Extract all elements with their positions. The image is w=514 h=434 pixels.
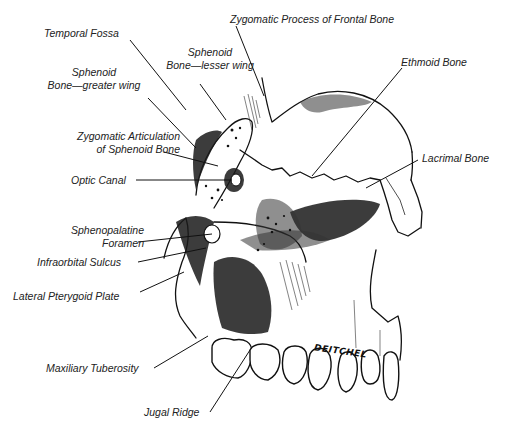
label-sphenopalatine-line1: Sphenopalatine: [40, 224, 144, 237]
leader-lateral-pterygoid: [140, 272, 184, 292]
label-lacrimal-bone: Lacrimal Bone: [422, 152, 489, 165]
label-temporal-fossa: Temporal Fossa: [44, 27, 119, 40]
label-maxillary-tuberosity: Maxiliary Tuberosity: [46, 362, 139, 375]
label-zygomatic-articulation-line1: Zygomatic Articulation: [40, 130, 180, 143]
label-infraorbital-sulcus: Infraorbital Sulcus: [37, 256, 121, 269]
label-ethmoid-bone: Ethmoid Bone: [401, 56, 467, 69]
label-sphenoid-greater-wing: Sphenoid Bone—greater wing: [38, 66, 150, 92]
label-sphenoid-greater-line1: Sphenoid: [38, 66, 150, 79]
teeth: [212, 338, 399, 400]
label-sphenopalatine-foramen: Sphenopalatine Foramen: [40, 224, 144, 250]
leader-maxillary-tuberosity: [154, 336, 208, 368]
label-zygomatic-process-frontal: Zygomatic Process of Frontal Bone: [230, 13, 394, 26]
leader-sphenoid-lesser: [200, 84, 226, 120]
sphenoid-greater-wing: [193, 119, 252, 208]
skull-diagram: Zygomatic Process of Frontal Bone Tempor…: [0, 0, 514, 434]
label-jugal-ridge: Jugal Ridge: [144, 406, 199, 419]
label-zygomatic-articulation: Zygomatic Articulation of Sphenoid Bone: [40, 130, 180, 156]
label-lateral-pterygoid-plate: Lateral Pterygoid Plate: [13, 290, 119, 303]
label-sphenopalatine-line2: Foramen: [40, 237, 144, 250]
label-sphenoid-greater-line2: Bone—greater wing: [38, 79, 150, 92]
orbit-suture: [240, 150, 380, 182]
frontal-bone: [262, 78, 412, 180]
label-sphenoid-lesser-line2: Bone—lesser wing: [160, 59, 260, 72]
cheek-hatching: [280, 260, 380, 356]
leader-ethmoid: [312, 68, 402, 176]
label-sphenoid-lesser-line1: Sphenoid: [160, 46, 260, 59]
label-optic-canal: Optic Canal: [71, 174, 126, 187]
label-sphenoid-lesser-wing: Sphenoid Bone—lesser wing: [160, 46, 260, 72]
label-zygomatic-articulation-line2: of Sphenoid Bone: [40, 143, 180, 156]
leader-lacrimal: [366, 160, 418, 188]
lacrimal-region: [380, 178, 422, 236]
